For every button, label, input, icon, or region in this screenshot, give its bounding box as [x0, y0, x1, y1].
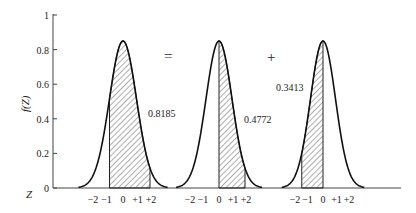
distribution-panel-1: −2−10+1+20.8185	[78, 41, 175, 205]
shaded-area	[219, 41, 245, 188]
z-tick-label: +2	[344, 194, 355, 205]
plus-sign: +	[267, 49, 275, 65]
z-tick-label: +2	[146, 194, 157, 205]
z-tick-label: −1	[198, 194, 209, 205]
z-tick-label: −1	[302, 194, 313, 205]
z-tick-label: +1	[132, 194, 143, 205]
y-tick-label: 0.6	[37, 79, 50, 90]
distribution-panel-3: −2−10+1+20.3413	[276, 41, 364, 205]
y-axis: 00.20.40.60.81	[37, 10, 58, 194]
z-tick-label: 0	[121, 194, 126, 205]
z-tick-label: −2	[185, 194, 196, 205]
y-tick-label: 0.2	[37, 148, 50, 159]
normal-distribution-figure: 00.20.40.60.81 f(Z) Z = + −2−10+1+20.818…	[0, 0, 416, 213]
y-tick-label: 0.4	[37, 114, 50, 125]
z-tick-label: +2	[241, 194, 252, 205]
shaded-area	[302, 41, 323, 188]
z-tick-label: −1	[101, 194, 112, 205]
z-tick-label: −2	[290, 194, 301, 205]
y-tick-label: 0.8	[37, 45, 50, 56]
z-tick-label: +1	[228, 194, 239, 205]
area-value-label: 0.8185	[148, 108, 176, 119]
distribution-panel-2: −2−10+1+20.4772	[176, 41, 271, 205]
x-axis-label: Z	[26, 188, 33, 200]
area-value-label: 0.4772	[244, 114, 272, 125]
y-axis-label: f(Z)	[19, 95, 32, 112]
equals-sign: =	[164, 48, 172, 64]
z-tick-label: +1	[331, 194, 342, 205]
z-tick-label: 0	[321, 194, 326, 205]
area-value-label: 0.3413	[276, 82, 304, 93]
y-tick-label: 1	[44, 10, 49, 21]
z-tick-label: 0	[217, 194, 222, 205]
z-tick-label: −2	[88, 194, 99, 205]
y-tick-label: 0	[44, 183, 49, 194]
